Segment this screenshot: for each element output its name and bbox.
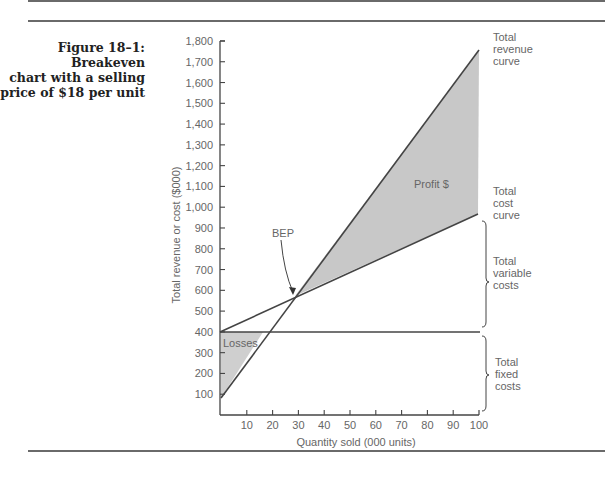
profit-label: Profit $ (414, 178, 449, 190)
x-tick-label: 20 (266, 419, 278, 431)
cost-label-2: cost (493, 197, 513, 209)
revenue-label-1: Total (493, 31, 516, 43)
y-axis-ticks: 1002003004005006007008009001,0001,1001,2… (185, 35, 225, 400)
y-tick-label: 1,200 (185, 160, 213, 172)
cost-label-1: Total (493, 185, 516, 197)
y-axis-title: Total revenue or cost ($000) (170, 167, 182, 304)
fixed-label-3: costs (495, 380, 521, 392)
y-tick-label: 500 (195, 305, 213, 317)
y-tick-label: 200 (195, 367, 213, 379)
y-tick-label: 300 (195, 347, 213, 359)
y-tick-label: 700 (195, 264, 213, 276)
bep-label: BEP (272, 227, 294, 239)
y-tick-label: 1,800 (185, 35, 213, 47)
variable-costs-bracket (482, 221, 489, 327)
revenue-label-2: revenue (493, 43, 533, 55)
y-tick-label: 600 (195, 284, 213, 296)
x-tick-label: 80 (421, 419, 433, 431)
x-tick-label: 30 (292, 419, 304, 431)
x-axis-ticks: 102030405060708090100 (241, 410, 489, 431)
fixed-label-2: fixed (495, 368, 518, 380)
y-tick-label: 900 (195, 222, 213, 234)
fixed-costs-bracket (482, 336, 489, 411)
x-tick-label: 90 (447, 419, 459, 431)
y-tick-label: 1,000 (185, 201, 213, 213)
y-tick-label: 1,700 (185, 56, 213, 68)
cost-label-3: curve (493, 209, 520, 221)
x-tick-label: 70 (395, 419, 407, 431)
variable-label-2: variable (493, 267, 532, 279)
revenue-label-3: curve (493, 55, 520, 67)
x-tick-label: 100 (470, 419, 488, 431)
x-axis-title: Quantity sold (000 units) (296, 436, 415, 448)
y-tick-label: 100 (195, 388, 213, 400)
variable-label-1: Total (493, 255, 516, 267)
breakeven-chart: 1002003004005006007008009001,0001,1001,2… (0, 0, 611, 479)
fixed-label-1: Total (495, 356, 518, 368)
losses-label: Losses (223, 337, 258, 349)
variable-label-3: costs (493, 279, 519, 291)
y-tick-label: 1,600 (185, 77, 213, 89)
y-tick-label: 1,300 (185, 139, 213, 151)
bep-arrowhead (289, 287, 296, 295)
x-tick-label: 10 (241, 419, 253, 431)
bep-arrow (281, 240, 293, 292)
x-tick-label: 50 (344, 419, 356, 431)
y-tick-label: 1,400 (185, 118, 213, 130)
y-tick-label: 1,500 (185, 97, 213, 109)
y-tick-label: 1,100 (185, 180, 213, 192)
y-tick-label: 800 (195, 243, 213, 255)
x-tick-label: 60 (370, 419, 382, 431)
x-tick-label: 40 (318, 419, 330, 431)
y-tick-label: 400 (195, 326, 213, 338)
